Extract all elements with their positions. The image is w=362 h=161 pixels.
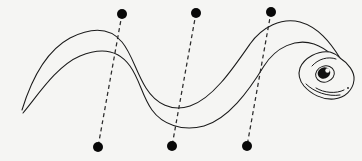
snake-transect-diagram: [0, 0, 362, 161]
transect-2-bottom-dot: [167, 141, 177, 151]
transect-2-top-dot: [191, 8, 201, 18]
eye-highlight: [325, 68, 329, 72]
transect-3-top-dot: [266, 7, 276, 17]
nostril-dot: [347, 87, 349, 89]
figure-canvas: [0, 0, 362, 161]
transect-1-bottom-dot: [93, 142, 103, 152]
transect-3-bottom-dot: [242, 141, 252, 151]
transect-1-top-dot: [117, 9, 127, 19]
